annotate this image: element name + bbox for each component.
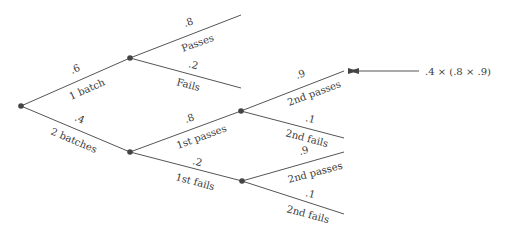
- prob-passes: .8: [182, 15, 195, 29]
- node-1-batch: [127, 55, 133, 61]
- prob-1-batch: .6: [68, 62, 81, 76]
- label-1st-fails: 1st fails: [174, 171, 215, 192]
- label-2nd-fails-b: 2nd fails: [285, 203, 330, 225]
- label-fails: Fails: [175, 76, 201, 93]
- prob-fails: .2: [187, 58, 199, 71]
- node-1st-passes: [238, 108, 244, 114]
- prob-2-batches: .4: [73, 112, 86, 126]
- node-2-batches: [127, 149, 133, 155]
- arrowhead-icon: [349, 68, 359, 74]
- prob-2nd-passes-a: .9: [294, 67, 307, 81]
- node-1st-fails: [239, 178, 245, 184]
- node-root: [18, 103, 24, 109]
- label-2nd-passes-b: 2nd passes: [287, 160, 344, 185]
- label-1st-passes: 1st passes: [175, 123, 228, 151]
- label-1-batch: 1 batch: [67, 76, 107, 102]
- prob-2nd-fails-b: .1: [304, 187, 316, 200]
- label-2-batches: 2 batches: [49, 126, 98, 155]
- prob-2nd-fails-a: .1: [304, 112, 316, 125]
- prob-1st-passes: .8: [183, 111, 196, 125]
- label-passes: Passes: [180, 32, 215, 54]
- prob-2nd-passes-b: .9: [298, 144, 310, 157]
- annotation-formula: .4 × (.8 × .9): [425, 66, 491, 77]
- probability-tree-diagram: .6 1 batch .4 2 batches .8 Passes .2 Fai…: [0, 0, 511, 234]
- prob-1st-fails: .2: [191, 155, 203, 168]
